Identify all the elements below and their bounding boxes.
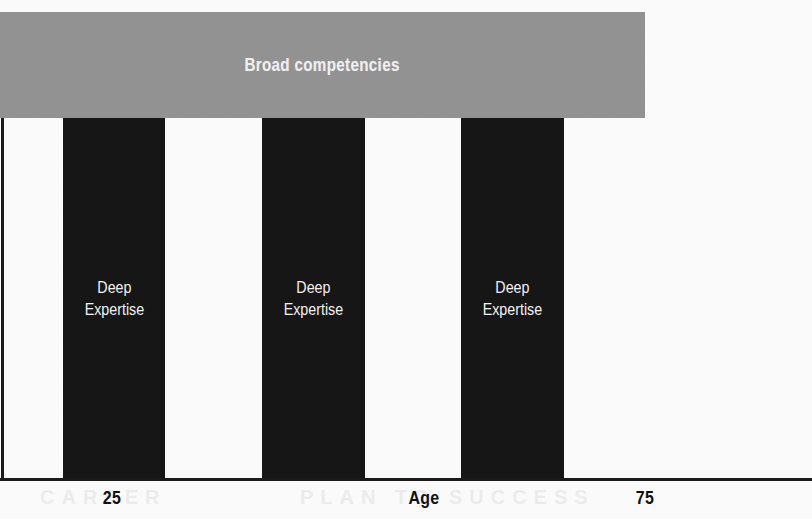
deep-expertise-label-3: Deep Expertise xyxy=(483,277,543,322)
deep-expertise-label-2: Deep Expertise xyxy=(284,277,344,322)
deep-expertise-label-1: Deep Expertise xyxy=(84,277,144,322)
x-axis-line xyxy=(0,478,812,481)
deep-expertise-bar-1: Deep Expertise xyxy=(63,118,165,478)
deep-expertise-bar-2: Deep Expertise xyxy=(262,118,365,478)
broad-competencies-band: Broad competencies xyxy=(0,12,645,118)
y-axis-line xyxy=(1,118,4,480)
deep-expertise-bar-3: Deep Expertise xyxy=(461,118,564,478)
chart-figure: THE ONE-PAGE CAREER PLAN TO SUCCESS Broa… xyxy=(0,0,812,519)
broad-competencies-label: Broad competencies xyxy=(245,54,400,76)
paper-bleed-text-bottom: PLAN TO SUCCESS xyxy=(300,486,595,509)
x-axis-tick-25: 25 xyxy=(103,487,121,509)
x-axis-title: Age xyxy=(409,487,440,509)
x-axis-tick-75: 75 xyxy=(636,487,654,509)
